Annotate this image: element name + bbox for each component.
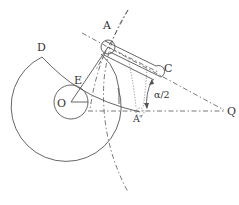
label-d: D	[37, 41, 46, 54]
arrowhead-bottom	[144, 103, 149, 109]
label-c: C	[164, 62, 172, 75]
arm-centerline	[108, 47, 158, 72]
disc-outer-arc	[11, 57, 121, 161]
mechanism-diagram: A C D E O A' Q α/2	[0, 0, 239, 205]
projection-dotted-left	[128, 58, 136, 108]
label-a: A	[102, 19, 112, 32]
label-e: E	[74, 74, 82, 87]
dashed-arc-large	[104, 10, 129, 192]
label-angle: α/2	[154, 89, 170, 100]
label-a-prime: A'	[132, 113, 142, 124]
label-q: Q	[227, 105, 236, 118]
dashed-line-axis	[96, 10, 128, 70]
label-o: O	[57, 97, 66, 110]
